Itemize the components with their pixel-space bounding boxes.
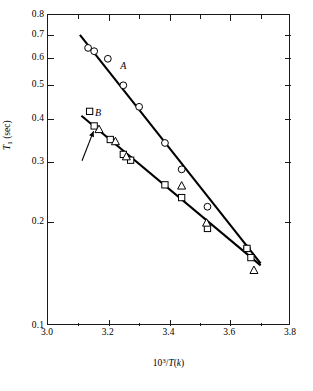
x-tick-label: 3.4 <box>163 327 175 337</box>
x-tick-label: 3.2 <box>102 327 114 337</box>
y-major-tick-right <box>285 222 291 223</box>
y-major-tick-left <box>48 162 54 163</box>
x-minor-tick-top <box>139 15 140 19</box>
x-minor-tick-top <box>261 15 262 19</box>
figure: 0.10.20.30.40.50.60.70.8 3.03.23.43.63.8… <box>0 0 313 391</box>
figure-caption <box>0 378 313 391</box>
data-point-square <box>248 254 254 260</box>
series-label-b: B <box>95 107 101 118</box>
data-point-circle <box>204 203 211 210</box>
data-point-square <box>107 136 113 142</box>
x-minor-tick-bottom <box>261 323 262 327</box>
y-tick-label: 0.4 <box>32 113 44 123</box>
y-tick-label: 0.5 <box>32 79 44 89</box>
data-point-circle <box>162 140 169 147</box>
data-point-circle <box>91 48 98 55</box>
y-major-tick-right <box>285 35 291 36</box>
fit-line-a <box>80 35 261 263</box>
y-tick-label: 0.8 <box>32 9 44 19</box>
data-point-circle <box>178 166 185 173</box>
data-point-circle <box>120 82 127 89</box>
y-tick-label: 0.2 <box>32 216 44 226</box>
y-major-tick-right <box>285 58 291 59</box>
x-minor-tick-top <box>200 15 201 19</box>
x-axis-title: 103/T(k) <box>47 356 290 368</box>
y-major-tick-left <box>48 35 54 36</box>
x-axis-title-text: 103/T(k) <box>153 358 185 368</box>
x-major-tick-top <box>170 15 171 21</box>
x-major-tick-bottom <box>109 320 110 326</box>
y-major-tick-left <box>48 119 54 120</box>
y-tick-label: 0.6 <box>32 52 44 62</box>
y-axis-title: T1 (sec) <box>2 136 14 150</box>
data-point-square <box>86 108 92 114</box>
series-label-a: A <box>120 60 126 71</box>
x-minor-tick-bottom <box>78 323 79 327</box>
x-major-tick-bottom <box>170 320 171 326</box>
y-major-tick-right <box>285 119 291 120</box>
y-tick-label: 0.7 <box>32 29 44 39</box>
x-tick-label: 3.8 <box>284 327 296 337</box>
x-tick-label: 3.0 <box>41 327 53 337</box>
y-axis-title-text: T1 (sec) <box>2 120 12 150</box>
data-point-square <box>162 182 168 188</box>
y-major-tick-left <box>48 58 54 59</box>
x-major-tick-top <box>109 15 110 21</box>
data-point-square <box>179 194 185 200</box>
y-major-tick-right <box>285 162 291 163</box>
x-major-tick-top <box>230 15 231 21</box>
x-tick-label: 3.6 <box>223 327 235 337</box>
data-point-square <box>244 245 250 251</box>
x-minor-tick-bottom <box>139 323 140 327</box>
data-point-triangle <box>178 182 186 189</box>
y-axis-tick-labels: 0.10.20.30.40.50.60.70.8 <box>0 14 44 325</box>
x-minor-tick-bottom <box>200 323 201 327</box>
data-point-circle <box>136 103 143 110</box>
x-major-tick-bottom <box>230 320 231 326</box>
y-major-tick-right <box>285 85 291 86</box>
y-tick-label: 0.3 <box>32 156 44 166</box>
plot-overlay <box>48 15 291 326</box>
x-minor-tick-top <box>78 15 79 19</box>
data-point-triangle <box>250 266 258 273</box>
x-axis-tick-labels: 3.03.23.43.63.8 <box>47 327 290 343</box>
y-major-tick-left <box>48 222 54 223</box>
data-point-circle <box>104 55 111 62</box>
data-point-square <box>91 123 97 129</box>
plot-area <box>47 14 290 325</box>
y-major-tick-left <box>48 85 54 86</box>
